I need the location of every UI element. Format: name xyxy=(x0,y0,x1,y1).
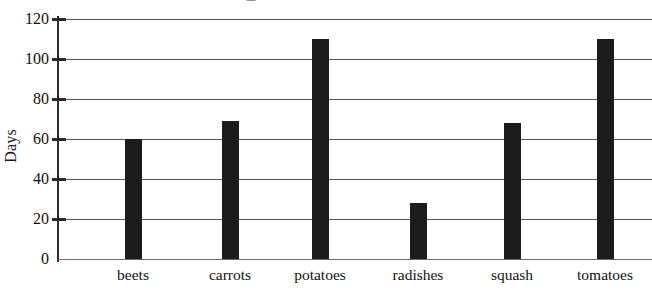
x-axis-label-radishes: radishes xyxy=(393,266,444,284)
x-axis-label-beets: beets xyxy=(117,266,149,284)
y-tick-label-0: 0 xyxy=(41,250,49,268)
y-axis-label: Days xyxy=(2,116,20,176)
y-tick-label-60: 60 xyxy=(33,130,49,148)
x-axis-label-tomatoes: tomatoes xyxy=(577,266,633,284)
bar-chart-figure: Days 020406080100120 beetscarrotspotatoe… xyxy=(0,0,652,292)
x-axis-label-carrots: carrots xyxy=(209,266,251,284)
y-tick-label-40: 40 xyxy=(33,170,49,188)
plot-area: 020406080100120 xyxy=(58,19,652,259)
bar-carrots xyxy=(222,121,239,259)
y-tick-60 xyxy=(52,138,66,141)
y-tick-40 xyxy=(52,178,66,181)
gridline-80: 80 xyxy=(58,99,652,100)
bar-potatoes xyxy=(312,39,329,259)
y-tick-label-20: 20 xyxy=(33,210,49,228)
gridline-60: 60 xyxy=(58,139,652,140)
gridline-20: 20 xyxy=(58,219,652,220)
y-tick-80 xyxy=(52,98,66,101)
bar-beets xyxy=(125,139,142,259)
gridline-120: 120 xyxy=(58,19,652,20)
bar-squash xyxy=(504,123,521,259)
y-tick-20 xyxy=(52,218,66,221)
cropped-title-remnant xyxy=(243,0,259,1)
gridline-0: 0 xyxy=(58,259,652,260)
gridline-40: 40 xyxy=(58,179,652,180)
gridline-100: 100 xyxy=(58,59,652,60)
y-tick-label-100: 100 xyxy=(25,50,49,68)
y-tick-120 xyxy=(52,18,66,21)
y-tick-100 xyxy=(52,58,66,61)
x-axis-label-potatoes: potatoes xyxy=(294,266,346,284)
y-tick-label-120: 120 xyxy=(25,10,49,28)
bar-tomatoes xyxy=(597,39,614,259)
x-axis-label-squash: squash xyxy=(491,266,533,284)
y-tick-label-80: 80 xyxy=(33,90,49,108)
bar-radishes xyxy=(410,203,427,259)
